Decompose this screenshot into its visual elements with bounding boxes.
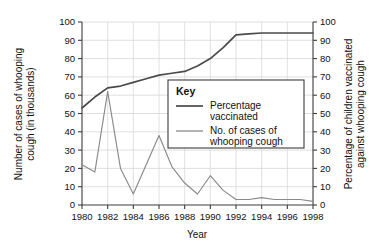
right-tick-label: 70 [320,71,331,82]
left-tick-label: 100 [59,16,75,27]
chart-svg: 0102030405060708090100 01020304050607080… [0,0,380,251]
x-tick-label: 1996 [277,211,298,222]
right-tick-label: 50 [320,108,331,119]
x-tick-label: 1986 [148,211,169,222]
right-tick-label: 20 [320,163,331,174]
x-tick-label: 1994 [251,211,272,222]
x-tick-label: 1988 [174,211,195,222]
left-axis: 0102030405060708090100 [59,16,82,210]
right-axis-title-line1: Percentage of children vaccinated [343,39,354,190]
x-tick-label: 1984 [123,211,144,222]
left-tick-label: 20 [64,163,75,174]
right-tick-label: 40 [320,126,331,137]
left-tick-label: 10 [64,181,75,192]
left-axis-title-line2: cough (in thousands) [25,67,36,160]
x-tick-label: 1992 [225,211,246,222]
left-tick-label: 30 [64,145,75,156]
x-tick-label: 1998 [302,211,323,222]
left-axis-ticks: 0102030405060708090100 [59,16,82,210]
legend-label-cases-line1: No. of cases of [210,125,277,136]
left-tick-label: 0 [70,199,75,210]
right-tick-label: 60 [320,90,331,101]
right-tick-label: 80 [320,53,331,64]
chart-figure: 0102030405060708090100 01020304050607080… [0,0,380,251]
legend-label-vaccination-line2: vaccinated [210,111,258,122]
left-tick-label: 90 [64,35,75,46]
legend-label-cases-line2: whooping cough [209,136,283,147]
left-axis-title-line1: Number of cases of whooping [13,48,24,180]
x-tick-label: 1980 [71,211,92,222]
left-tick-label: 80 [64,53,75,64]
right-tick-label: 0 [320,199,325,210]
left-tick-label: 40 [64,126,75,137]
legend-key: Key Percentage vaccinated No. of cases o… [168,80,304,148]
right-tick-label: 90 [320,35,331,46]
right-tick-label: 30 [320,145,331,156]
right-axis-title-line2: against whooping cough [355,60,366,168]
x-axis-title: Year [187,229,208,240]
x-tick-label: 1982 [97,211,118,222]
left-tick-label: 50 [64,108,75,119]
right-axis-ticks: 0102030405060708090100 [313,16,336,210]
legend-title: Key [176,85,195,97]
x-axis: 1980198219841986198819901992199419961998 [71,205,323,222]
x-tick-label: 1990 [200,211,221,222]
left-tick-label: 60 [64,90,75,101]
legend-label-vaccination-line1: Percentage [210,100,262,111]
right-axis: 0102030405060708090100 [313,16,336,210]
x-axis-ticks: 1980198219841986198819901992199419961998 [71,205,323,222]
right-tick-label: 10 [320,181,331,192]
left-tick-label: 70 [64,71,75,82]
right-tick-label: 100 [320,16,336,27]
